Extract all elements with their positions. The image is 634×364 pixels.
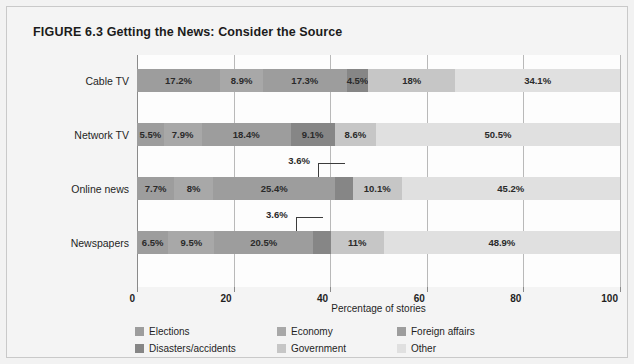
legend-item: Disasters/accidents [135, 340, 277, 357]
chart-legend: ElectionsEconomyForeign affairsDisasters… [135, 323, 535, 357]
category-label: Cable TV [7, 75, 129, 87]
bar-row: 5.5%7.9%18.4%9.1%8.6%50.5% [137, 123, 620, 146]
tick-mark [137, 287, 138, 292]
bar-segment: 34.1% [455, 69, 620, 92]
x-axis-title: Percentage of stories [137, 303, 620, 314]
bar-row: 6.5%9.5%20.5%11%48.9% [137, 231, 620, 254]
callout-leader-line [318, 163, 345, 178]
tick-mark [234, 287, 235, 292]
category-label: Network TV [7, 129, 129, 141]
legend-swatch-icon [135, 344, 144, 353]
bar-segment: 8.6% [335, 123, 377, 146]
tick-label: 0 [129, 293, 135, 304]
bar-segment: 7.7% [137, 177, 174, 200]
legend-label: Foreign affairs [411, 326, 475, 337]
bar-segment: 17.3% [263, 69, 347, 92]
tick-mark [523, 287, 524, 292]
legend-swatch-icon [397, 344, 406, 353]
plot-area: 17.2%8.9%17.3%4.5%18%34.1%5.5%7.9%18.4%9… [137, 55, 620, 287]
bar-segment: 8.9% [220, 69, 263, 92]
bar-segment: 20.5% [214, 231, 313, 254]
callout-label: 3.6% [266, 209, 288, 220]
bar-segment: 5.5% [137, 123, 164, 146]
bar-segment: 50.5% [376, 123, 620, 146]
figure-container: FIGURE 6.3 Getting the News: Consider th… [0, 0, 634, 364]
bar-row: 7.7%8%25.4%10.1%45.2% [137, 177, 620, 200]
bar-segment: 4.5% [347, 69, 369, 92]
bar-segment: 18.4% [202, 123, 291, 146]
bar-segment: 9.1% [291, 123, 335, 146]
bar-segment: 7.9% [164, 123, 202, 146]
bar-segment [313, 231, 330, 254]
bar-segment: 45.2% [402, 177, 620, 200]
figure-title-text: Getting the News: Consider the Source [107, 25, 343, 39]
callout-label: 3.6% [288, 155, 310, 166]
legend-label: Government [291, 343, 346, 354]
bar-segment: 6.5% [137, 231, 168, 254]
category-label: Online news [7, 183, 129, 195]
bar-segment: 8% [174, 177, 213, 200]
legend-item: Government [277, 340, 397, 357]
tick-mark [427, 287, 428, 292]
bar-segment: 48.9% [384, 231, 620, 254]
legend-swatch-icon [135, 327, 144, 336]
legend-label: Economy [291, 326, 333, 337]
gridline-100 [620, 55, 621, 287]
callout-leader-line [296, 217, 323, 232]
bar-segment: 9.5% [168, 231, 214, 254]
bar-segment: 25.4% [213, 177, 336, 200]
figure-number: FIGURE 6.3 [33, 25, 103, 39]
bar-segment: 17.2% [137, 69, 220, 92]
legend-swatch-icon [397, 327, 406, 336]
category-label: Newspapers [7, 237, 129, 249]
legend-item: Foreign affairs [397, 323, 535, 340]
bar-segment: 18% [368, 69, 455, 92]
figure-frame: FIGURE 6.3 Getting the News: Consider th… [6, 6, 628, 358]
tick-mark [620, 287, 621, 292]
legend-label: Elections [149, 326, 190, 337]
legend-swatch-icon [277, 344, 286, 353]
figure-title: FIGURE 6.3 Getting the News: Consider th… [33, 25, 342, 39]
legend-item: Economy [277, 323, 397, 340]
legend-item: Other [397, 340, 535, 357]
legend-swatch-icon [277, 327, 286, 336]
legend-item: Elections [135, 323, 277, 340]
bar-row: 17.2%8.9%17.3%4.5%18%34.1% [137, 69, 620, 92]
legend-label: Other [411, 343, 436, 354]
bar-segment: 10.1% [353, 177, 402, 200]
bar-segment: 11% [331, 231, 384, 254]
legend-label: Disasters/accidents [149, 343, 236, 354]
bar-segment [335, 177, 352, 200]
tick-mark [330, 287, 331, 292]
